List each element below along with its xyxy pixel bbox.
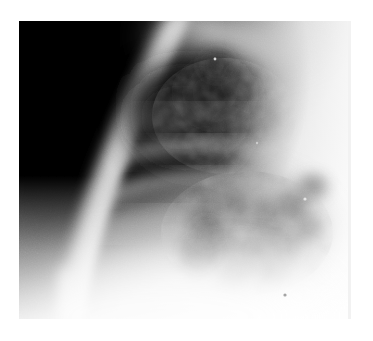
page-canvas [0, 0, 373, 341]
radiograph-canvas [19, 21, 351, 319]
film-grain [19, 21, 351, 319]
chest-radiograph-image [19, 21, 351, 319]
plate-edge-right [348, 21, 351, 319]
